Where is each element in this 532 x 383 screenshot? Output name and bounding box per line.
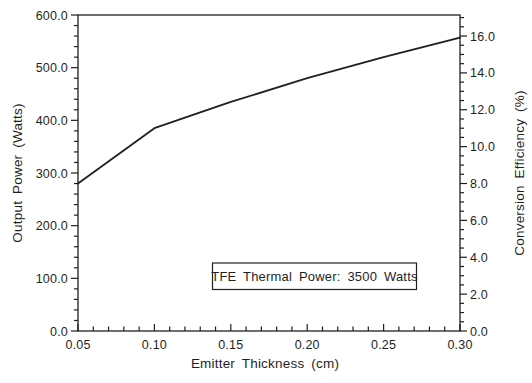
- y-left-tick-label: 100.0: [36, 272, 68, 286]
- x-tick-label: 0.05: [65, 338, 90, 352]
- y-right-tick-label: 14.0: [470, 66, 495, 80]
- power-efficiency-chart: 0.0100.0200.0300.0400.0500.0600.00.02.04…: [0, 0, 532, 383]
- y-right-axis-title: Conversion Efficiency (%): [512, 90, 527, 255]
- y-right-tick-label: 4.0: [470, 251, 488, 265]
- x-axis-title: Emitter Thickness (cm): [191, 356, 339, 371]
- chart-figure: 0.0100.0200.0300.0400.0500.0600.00.02.04…: [0, 0, 532, 383]
- y-right-tick-label: 8.0: [470, 177, 488, 191]
- y-right-tick-label: 2.0: [470, 288, 488, 302]
- y-left-tick-label: 200.0: [36, 219, 68, 233]
- x-tick-label: 0.15: [218, 338, 243, 352]
- chart-background: [0, 0, 532, 383]
- y-left-tick-label: 500.0: [36, 61, 68, 75]
- y-right-tick-label: 12.0: [470, 103, 495, 117]
- y-left-tick-label: 300.0: [36, 167, 68, 181]
- x-tick-label: 0.25: [371, 338, 396, 352]
- y-right-tick-label: 0.0: [470, 325, 488, 339]
- y-right-tick-label: 16.0: [470, 30, 495, 44]
- y-left-axis-title: Output Power (Watts): [10, 103, 25, 242]
- y-right-tick-label: 6.0: [470, 214, 488, 228]
- annotation-text: TFE Thermal Power: 3500 Watts: [211, 269, 418, 284]
- y-left-tick-label: 600.0: [36, 9, 68, 23]
- y-left-tick-label: 400.0: [36, 114, 68, 128]
- y-left-tick-label: 0.0: [50, 325, 68, 339]
- x-tick-label: 0.30: [447, 338, 472, 352]
- y-right-tick-label: 10.0: [470, 140, 495, 154]
- x-tick-label: 0.20: [295, 338, 320, 352]
- x-tick-label: 0.10: [142, 338, 167, 352]
